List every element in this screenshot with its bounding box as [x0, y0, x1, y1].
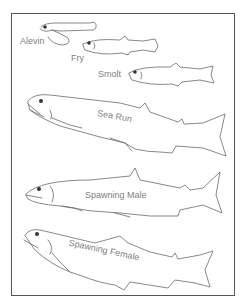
spawning-female-fish-icon	[24, 230, 213, 290]
smolt-fish-icon	[129, 63, 214, 86]
fry-fish-icon	[83, 36, 158, 55]
alevin-fish-icon	[40, 22, 96, 45]
label-alevin: Alevin	[20, 37, 45, 46]
label-smolt: Smolt	[98, 70, 121, 79]
sea-run-fish-icon	[28, 95, 226, 156]
label-spawning-male: Spawning Male	[85, 191, 147, 200]
label-fry: Fry	[71, 54, 84, 63]
